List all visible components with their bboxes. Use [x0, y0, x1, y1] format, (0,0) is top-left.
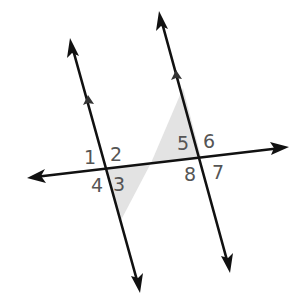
- angle-label-7: 7: [212, 161, 224, 183]
- arrowhead-up-left-icon: [67, 38, 79, 58]
- parallel-lines-transversal-diagram: 1 2 3 4 5 6 7 8: [0, 0, 299, 307]
- shade-angle-5: [151, 88, 201, 163]
- angle-label-3: 3: [113, 173, 125, 195]
- angle-label-5: 5: [177, 132, 189, 154]
- angle-label-6: 6: [203, 130, 215, 152]
- angle-label-1: 1: [84, 146, 96, 168]
- angle-label-8: 8: [184, 163, 196, 185]
- arrowhead-up-right-icon: [156, 11, 168, 31]
- angle-label-4: 4: [91, 174, 103, 196]
- angle-label-2: 2: [110, 143, 122, 165]
